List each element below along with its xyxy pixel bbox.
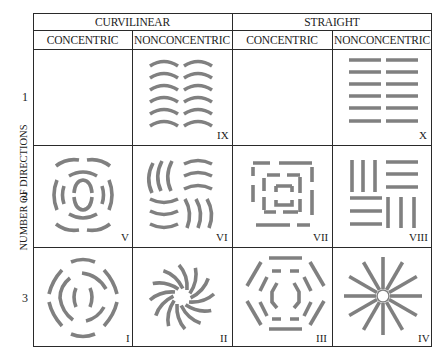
pattern-viii-basketweave-bars — [350, 160, 418, 228]
pattern-iii-concentric-hexagons — [247, 258, 324, 329]
pattern-illustrations — [0, 0, 445, 360]
pattern-ix-parallel-arcs — [150, 62, 212, 127]
pattern-i-concentric-circles — [49, 260, 117, 337]
pattern-ii-curved-radial — [150, 265, 214, 329]
pattern-vi-basketweave-arcs — [149, 161, 212, 229]
pattern-vii-concentric-squares — [253, 163, 312, 225]
pattern-iv-radial-spokes — [344, 257, 422, 335]
pattern-v-concentric-arcs — [54, 160, 112, 231]
pattern-x-parallel-bars — [349, 60, 418, 121]
